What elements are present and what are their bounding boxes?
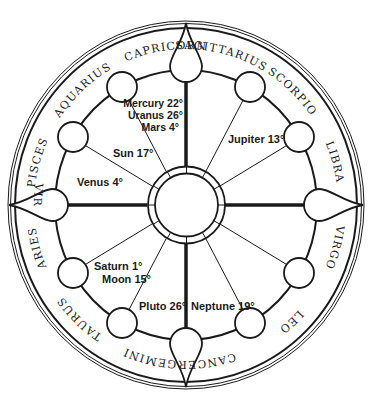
sign-aquarius: Aquarius: [51, 60, 114, 121]
sign-libra: Libra: [323, 139, 347, 184]
planet-neptune: Neptune 19°: [191, 300, 255, 312]
sign-leo: Leo: [277, 308, 307, 337]
planet-mercury: Mercury 22°: [123, 97, 183, 109]
sign-aries: Aries: [26, 226, 50, 272]
sign-taurus: Taurus: [54, 294, 104, 343]
natal-chart-wheel: Capricorn Sagittarius Scorpio Libra Aqua…: [0, 0, 376, 401]
planet-saturn: Saturn 1°: [94, 260, 142, 272]
sign-virgo: Virgo: [322, 224, 346, 272]
center-ring: [148, 167, 225, 244]
sign-gemini: Gemini: [121, 345, 177, 371]
planet-pluto: Pluto 26°: [139, 300, 186, 312]
planet-moon: Moon 15°: [102, 273, 151, 285]
planet-sun: Sun 17°: [113, 147, 153, 159]
sign-scorpio: Scorpio: [265, 65, 319, 119]
sign-pisces: Pisces: [25, 135, 51, 188]
planet-uranus: Uranus 26°: [128, 109, 183, 121]
planet-jupiter: Jupiter 13°: [228, 133, 284, 145]
planet-venus: Venus 4°: [77, 176, 123, 188]
planet-mars: Mars 4°: [142, 121, 179, 133]
